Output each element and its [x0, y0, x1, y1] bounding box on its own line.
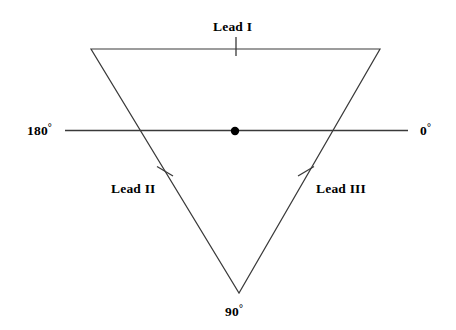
- degree-symbol-icon: °: [239, 303, 243, 314]
- diagram-canvas: [0, 0, 456, 330]
- degree-symbol-icon: °: [427, 122, 431, 133]
- degree-symbol-icon: °: [48, 122, 52, 133]
- angle-180-label: 180°: [27, 123, 52, 137]
- angle-0-label: 0°: [420, 123, 431, 137]
- center-point-dot: [231, 127, 239, 135]
- lead-1-label: Lead I: [213, 20, 252, 34]
- lead-3-tick-mark: [298, 167, 314, 177]
- einthoven-triangle-outline: [91, 49, 380, 293]
- angle-0-value: 0: [420, 123, 427, 138]
- angle-180-value: 180: [27, 123, 48, 138]
- lead-2-tick-mark: [157, 167, 173, 177]
- einthoven-triangle-figure: Lead I Lead II Lead III 180° 0° 90°: [0, 0, 456, 330]
- angle-90-label: 90°: [225, 304, 243, 318]
- angle-90-value: 90: [225, 304, 239, 319]
- lead-2-label: Lead II: [111, 182, 156, 196]
- lead-3-label: Lead III: [316, 182, 366, 196]
